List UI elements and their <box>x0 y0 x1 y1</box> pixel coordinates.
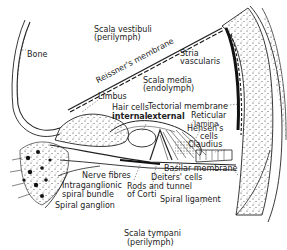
label-hair-cells: Hair cells <box>112 104 149 112</box>
label-deiters-cells: Deiters' cells <box>151 174 203 182</box>
label-spiral-bundle: spiral bundle <box>62 191 114 199</box>
bone-wall <box>12 20 60 136</box>
cochlea-drawing <box>0 0 287 250</box>
label-hair-cells-external: external <box>147 113 185 121</box>
label-spiral-ganglion: Spiral ganglion <box>55 202 115 210</box>
label-hair-cells-internal: internal <box>112 113 147 121</box>
label-scala-tympani: Scala tympani <box>124 230 181 238</box>
label-claudius: Claudius <box>188 141 222 149</box>
label-nerve-fibres: Nerve fibres <box>82 172 131 180</box>
label-scala-media-sub: (endolymph) <box>143 85 194 93</box>
label-intraganglionic: Intraganglionic <box>62 182 122 190</box>
label-spiral-ligament: Spiral ligament <box>160 196 221 204</box>
label-of-corti: of Corti <box>127 191 156 199</box>
label-tectorial-membrane: Tectorial membrane <box>148 103 228 111</box>
label-scala-vestibuli-sub: (perilymph) <box>94 34 141 42</box>
cochlea-diagram: Scala vestibuli (perilymph) Bone Reissne… <box>0 0 287 250</box>
label-vascularis: vascularis <box>180 58 220 66</box>
lateral-wall <box>222 6 286 222</box>
label-scala-tympani-sub: (perilymph) <box>127 239 174 247</box>
reissners-membrane <box>68 28 224 112</box>
label-bone: Bone <box>27 51 47 59</box>
label-limbus: Limbus <box>98 93 127 101</box>
label-basilar-membrane: Basilar membrane <box>164 165 238 173</box>
